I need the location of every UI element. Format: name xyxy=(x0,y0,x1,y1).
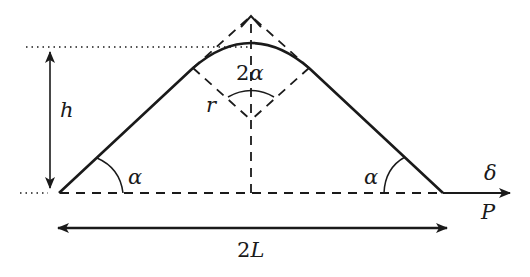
radius-label: r xyxy=(206,93,218,117)
left-angle-arc xyxy=(97,158,123,193)
arch-diagram: h 2α r α α δ P 2L xyxy=(0,0,530,277)
span-label: 2L xyxy=(237,238,264,262)
right-angle-label: α xyxy=(364,165,378,189)
left-angle-label: α xyxy=(128,165,142,189)
apex-angle-label: 2α xyxy=(236,61,264,85)
load-label: P xyxy=(480,200,496,224)
right-angle-arc xyxy=(384,157,405,193)
height-label: h xyxy=(60,98,74,122)
displacement-label: δ xyxy=(484,161,497,185)
